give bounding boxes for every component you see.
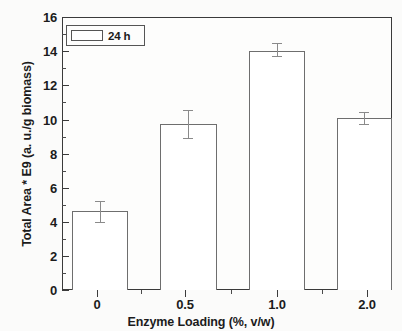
y-tick-4	[62, 222, 69, 223]
y-tick-6	[62, 188, 69, 189]
error-bar-2	[277, 43, 278, 56]
y-tick-minor-9	[62, 137, 66, 138]
bar-3	[337, 118, 392, 290]
legend-swatch-24h	[71, 30, 103, 41]
bar-1	[160, 124, 217, 290]
x-tick-label-2-0: 2.0	[337, 298, 397, 311]
x-tick-0	[97, 290, 98, 297]
bar-2	[249, 51, 305, 290]
error-cap-bottom-2	[272, 56, 282, 57]
y-tick-10	[62, 120, 69, 121]
error-cap-top-2	[272, 43, 282, 44]
y-tick-16	[62, 17, 69, 18]
x-tick-minor-2	[231, 290, 232, 294]
error-bar-1	[188, 110, 189, 138]
y-tick-minor-3	[62, 239, 66, 240]
error-cap-top-0	[95, 201, 105, 202]
x-tick-1-0	[277, 290, 278, 297]
y-tick-2	[62, 256, 69, 257]
y-tick-0	[62, 290, 69, 291]
error-cap-top-1	[183, 110, 193, 111]
y-tick-12	[62, 85, 69, 86]
y-tick-8	[62, 154, 69, 155]
y-tick-minor-11	[62, 102, 66, 103]
x-axis-title: Enzyme Loading (%, v/w)	[0, 315, 402, 329]
x-tick-label-0-5: 0.5	[155, 298, 215, 311]
x-tick-0-5	[185, 290, 186, 297]
error-cap-bottom-0	[95, 222, 105, 223]
chart-legend: 24 h	[66, 25, 145, 46]
error-cap-bottom-1	[183, 138, 193, 139]
x-tick-2-0	[367, 290, 368, 297]
legend-label-24h: 24 h	[108, 30, 130, 42]
y-axis-title: Total Area * E9 (a. u./g biomass)	[20, 9, 34, 299]
bar-chart-figure: 16 14 12 10 8 6 4 2 0 0 0.5 1.0 2.0 24 h…	[0, 0, 402, 331]
error-cap-bottom-3	[359, 124, 369, 125]
y-tick-minor-5	[62, 205, 66, 206]
y-tick-minor-7	[62, 171, 66, 172]
error-cap-top-3	[359, 112, 369, 113]
y-tick-minor-1	[62, 273, 66, 274]
y-tick-minor-13	[62, 68, 66, 69]
x-tick-label-0: 0	[67, 298, 127, 311]
x-tick-minor-1	[141, 290, 142, 294]
y-tick-14	[62, 51, 69, 52]
error-bar-3	[364, 112, 365, 124]
error-bar-0	[100, 201, 101, 222]
x-tick-minor-3	[322, 290, 323, 294]
x-tick-label-1-0: 1.0	[247, 298, 307, 311]
